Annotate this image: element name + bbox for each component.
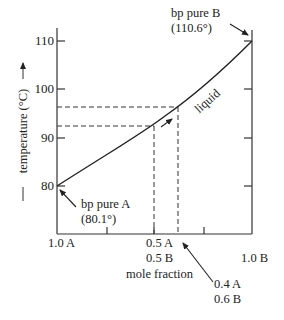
guide-lines [57,107,178,234]
y-ticks-right [244,41,252,186]
y-tick-110: 110 [35,33,54,48]
composition-label-b: 0.6 B [214,292,241,306]
y-tick-100: 100 [35,81,55,96]
bp-pure-b-label: bp pure B [171,6,220,20]
bp-pure-b-value: (110.6°) [171,21,212,35]
composition-label-a: 0.4 A [214,277,241,291]
y-tick-80: 80 [41,178,54,193]
x-label-1.0B: 1.0 B [241,251,268,265]
x-label-0.5A: 0.5 A [146,236,173,250]
bp-pure-a-arrow [60,190,76,207]
y-ticks-left [57,41,65,186]
y-tick-90: 90 [41,130,54,145]
x-ticks [107,227,204,234]
x-label-0.5B: 0.5 B [146,251,173,265]
liquid-curve [57,41,252,186]
liquid-label: liquid [192,86,224,116]
bp-pure-b-arrow [230,24,248,35]
x-label-1.0A: 1.0 A [48,236,75,250]
x-axis-label: mole fraction [126,267,194,281]
boiling-point-diagram: 110 100 90 80 temperature (°C) liquid bp… [0,0,284,320]
direction-arrow [161,119,172,127]
bp-pure-a-value: (80.1°) [81,212,116,226]
bp-pure-a-label: bp pure A [81,197,130,211]
y-axis-label: temperature (°C) [16,63,30,201]
y-axis-label-text: temperature (°C) [16,89,30,173]
